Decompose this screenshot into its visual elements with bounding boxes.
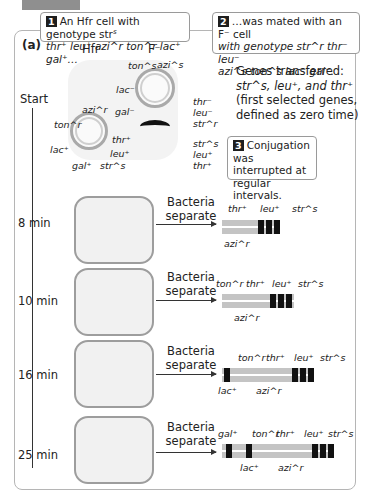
gene-label: str^s (292, 203, 318, 214)
gene-label: str^r (193, 118, 217, 129)
recombinant-chromosome-8min (222, 220, 280, 234)
gene-label: gal⁻ (115, 106, 135, 117)
gene-label: leu⁺ (260, 203, 280, 214)
hfr-label: Hfr (82, 42, 99, 56)
gene-label: ton^r (238, 352, 265, 363)
gene-label: ton^r (54, 119, 81, 130)
callout-3-line1: Conjugation was (233, 139, 310, 164)
gene-label: azi^r (224, 238, 249, 249)
hfr-chromosome (70, 112, 108, 150)
gene-label: thr⁺ (246, 278, 265, 289)
genes-transferred-note: Genes transferred: str^s, leu⁺, and thr⁺… (236, 64, 358, 122)
mating-pair-8min (74, 196, 154, 264)
callout-2-line2: with genotype str^r thr⁻ leu⁻ (218, 40, 354, 65)
gene-label: azi^s (157, 59, 183, 70)
note-line3: (first selected genes, (236, 93, 358, 108)
gene-label: azi^r (278, 462, 303, 473)
callout-1-line1: An Hfr cell with genotype str (46, 15, 140, 40)
time-label-10: 10 min (18, 294, 58, 308)
recombinant-chromosome-10min (222, 294, 294, 308)
step-number-2: 2 (218, 16, 229, 27)
gene-label: thr⁺ (266, 352, 285, 363)
gene-label: thr⁺ (228, 203, 247, 214)
gene-label: str^s (298, 278, 324, 289)
gene-label: azi^r (256, 385, 281, 396)
callout-2-line1: …was mated with an F⁻ cell (218, 15, 342, 40)
note-line4: defined as zero time) (236, 108, 358, 123)
gene-label: str^s (320, 352, 346, 363)
panel-label: (a) (22, 38, 41, 52)
gene-label: lac⁺ (218, 385, 237, 396)
callout-3-line2: interrupted at (233, 164, 311, 177)
note-line2: str^s, leu⁺, and thr⁺ (236, 79, 358, 94)
mating-pair-10min (74, 268, 154, 336)
gene-label: ton^r (216, 278, 243, 289)
gene-label: gal⁺ (72, 160, 92, 171)
recombinant-chromosome-16min (222, 368, 314, 382)
gene-label: str^s (328, 428, 354, 439)
gene-label: leu⁺ (294, 352, 314, 363)
mating-pair-16min (74, 340, 154, 408)
gene-label: thr⁺ (112, 134, 131, 145)
timeline-line (32, 108, 33, 468)
callout-fminus-genotype: 2…was mated with an F⁻ cell with genotyp… (212, 12, 360, 54)
arrow-icon (156, 300, 216, 301)
gene-label: leu⁻ (193, 107, 213, 118)
step-number-1: 1 (46, 16, 57, 27)
gene-label: leu⁺ (304, 428, 324, 439)
note-line1: Genes transferred: (236, 64, 358, 79)
action-label: Bacteria separate (156, 195, 226, 223)
gene-label: str^s (193, 138, 219, 149)
gene-label: str^s (100, 160, 126, 171)
callout-hfr-genotype: 1An Hfr cell with genotype strs thr⁺ leu… (40, 12, 190, 42)
gene-label: ton^s (128, 60, 156, 71)
mating-pair-25min (74, 416, 154, 484)
arrow-icon (156, 224, 216, 225)
gene-label: gal⁺ (218, 428, 238, 439)
arrow-icon (156, 374, 216, 375)
action-label: Bacteria separate (156, 420, 226, 448)
gene-label: lac⁺ (50, 144, 69, 155)
gene-label: lac⁺ (240, 462, 259, 473)
fminus-label: F⁻ (148, 42, 161, 56)
gene-label: thr⁺ (193, 160, 212, 171)
gene-label: thr⁺ (276, 428, 295, 439)
time-label-25: 25 min (18, 448, 58, 462)
callout-3-line3: regular intervals. (233, 177, 311, 202)
gene-label: azi^r (82, 104, 107, 115)
gene-label: leu⁺ (272, 278, 292, 289)
callout-conjugation-interrupted: 3Conjugation was interrupted at regular … (227, 136, 317, 180)
header-tab (22, 0, 80, 10)
gene-label: leu⁺ (193, 149, 213, 160)
recombinant-chromosome-25min (222, 444, 334, 458)
time-label-16: 16 min (18, 368, 58, 382)
callout-1-sup: s (113, 27, 117, 35)
action-label: Bacteria separate (156, 344, 226, 372)
start-label: Start (20, 92, 48, 106)
fminus-chromosome (135, 68, 175, 108)
transferred-strand (140, 120, 170, 133)
gene-label: leu⁺ (110, 148, 130, 159)
gene-label: lac⁻ (116, 84, 135, 95)
gene-label: thr⁻ (193, 96, 212, 107)
gene-label: azi^r (234, 312, 259, 323)
arrow-icon (156, 452, 216, 453)
step-number-3: 3 (233, 140, 244, 151)
time-label-8: 8 min (18, 216, 51, 230)
